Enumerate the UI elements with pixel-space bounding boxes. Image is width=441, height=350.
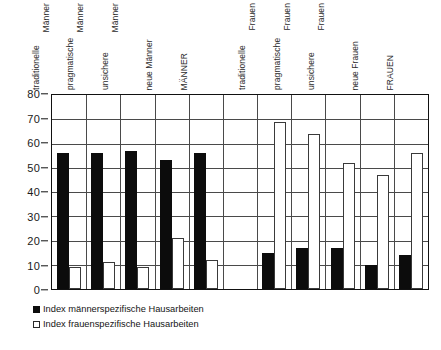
legend-item-maennerspezifisch: Index männerspezifische Hausarbeiten (33, 302, 204, 317)
bar-maennerspezifisch (365, 265, 377, 289)
bar-frauenspezifisch (103, 262, 115, 289)
bar-maennerspezifisch (262, 253, 274, 289)
bar-group (394, 95, 428, 289)
bar-maennerspezifisch (194, 153, 206, 289)
y-tick-mark (41, 240, 48, 241)
y-tick-label: 60 (27, 137, 40, 149)
bar-columns (52, 95, 428, 289)
y-tick-label: 10 (27, 260, 40, 272)
legend-item-frauenspezifisch: Index frauenspezifische Hausarbeiten (33, 317, 204, 332)
bar-frauenspezifisch (308, 134, 320, 289)
bar-group (257, 95, 291, 289)
bar-group (86, 95, 120, 289)
bar-maennerspezifisch (399, 255, 411, 289)
bar-maennerspezifisch (125, 151, 137, 289)
category-label-traditionelle-frauen: traditionelleFrauen (238, 2, 257, 90)
bar-group (326, 95, 360, 289)
bar-group (120, 95, 154, 289)
y-tick-mark (41, 142, 48, 143)
y-tick-mark (41, 289, 48, 290)
bar-maennerspezifisch (296, 248, 308, 289)
legend-label: Index frauenspezifische Hausarbeiten (43, 317, 199, 332)
category-label-pragmatische-frauen: pragmatischeFrauen (273, 2, 292, 90)
category-label-traditionelle-maenner: traditionelleMänner (32, 2, 51, 90)
legend-label: Index männerspezifische Hausarbeiten (43, 302, 204, 317)
y-tick-label: 80 (27, 88, 40, 100)
bar-frauenspezifisch (377, 175, 389, 289)
bar-frauenspezifisch (411, 153, 423, 289)
y-tick-mark (41, 167, 48, 168)
bar-group (291, 95, 325, 289)
category-label-neue-frauen: neue Frauen (351, 2, 361, 90)
category-label-pragmatische-maenner: pragmatischeMänner (66, 2, 85, 90)
bar-maennerspezifisch (91, 153, 103, 289)
y-axis: 80 70 60 50 40 30 20 10 0 (0, 94, 51, 290)
bar-group-empty (223, 95, 257, 289)
legend-swatch-filled-square-icon (33, 306, 40, 313)
y-tick-label: 50 (27, 162, 40, 174)
category-label-frauen-total: FRAUEN (385, 2, 395, 90)
y-tick-mark (41, 191, 48, 192)
y-tick-mark (41, 93, 48, 94)
category-label-neue-maenner: neue Männer (145, 2, 155, 90)
bar-group (189, 95, 223, 289)
bar-group (52, 95, 86, 289)
y-tick-label: 0 (34, 284, 40, 296)
category-label-unsichere-maenner: unsichereMänner (101, 2, 120, 90)
bar-frauenspezifisch (206, 260, 218, 289)
legend: Index männerspezifische Hausarbeiten Ind… (33, 302, 204, 332)
legend-swatch-open-square-icon (33, 321, 40, 328)
bar-frauenspezifisch (343, 163, 355, 289)
bar-maennerspezifisch (331, 248, 343, 289)
plot-area (51, 94, 429, 290)
bar-group (155, 95, 189, 289)
y-tick-label: 40 (27, 186, 40, 198)
bar-frauenspezifisch (274, 122, 286, 289)
bar-group (360, 95, 394, 289)
y-tick-label: 70 (27, 113, 40, 125)
y-tick-mark (41, 118, 48, 119)
bar-maennerspezifisch (160, 160, 172, 289)
category-labels: traditionelleMänner pragmatischeMänner u… (51, 2, 429, 90)
y-tick-mark (41, 216, 48, 217)
bar-frauenspezifisch (69, 267, 81, 289)
y-tick-mark (41, 265, 48, 266)
y-tick-label: 20 (27, 235, 40, 247)
y-tick-label: 30 (27, 211, 40, 223)
bar-frauenspezifisch (137, 267, 149, 289)
bar-maennerspezifisch (57, 153, 69, 289)
category-label-unsichere-frauen: unsichereFrauen (307, 2, 326, 90)
bar-frauenspezifisch (172, 238, 184, 289)
bar-chart: traditionelleMänner pragmatischeMänner u… (0, 0, 441, 350)
category-label-maenner-total: MÄNNER (179, 2, 189, 90)
